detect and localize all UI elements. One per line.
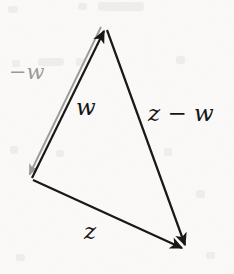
label-minus-w: −w [9,62,45,83]
paper-grain-overlay [0,0,234,274]
vector-diagram-canvas [0,0,234,274]
label-z: z [84,220,96,243]
label-w: w [76,96,96,119]
vector-diagram-figure: −w w z − w z [0,0,234,274]
label-z-minus-w: z − w [148,102,214,125]
